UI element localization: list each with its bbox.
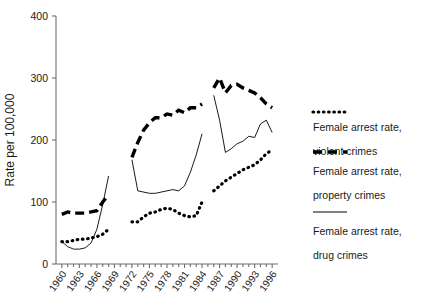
y-tick-label: 100 bbox=[30, 196, 48, 208]
y-tick-label: 200 bbox=[30, 134, 48, 146]
legend-label-line2: drug crimes bbox=[313, 249, 368, 261]
y-tick-label: 0 bbox=[42, 258, 48, 270]
chart-container: 0100200300400 19601963196619691972197519… bbox=[0, 0, 446, 304]
legend-label-line2: property crimes bbox=[313, 189, 385, 201]
y-tick-label: 400 bbox=[30, 10, 48, 22]
chart-background bbox=[0, 0, 446, 304]
line-chart: 0100200300400 19601963196619691972197519… bbox=[0, 0, 446, 304]
legend-label-line1: Female arrest rate, bbox=[313, 225, 402, 237]
y-tick-label: 300 bbox=[30, 72, 48, 84]
y-axis-label: Rate per 100,000 bbox=[3, 93, 17, 186]
legend-label-line1: Female arrest rate, bbox=[313, 165, 402, 177]
legend-label-line1: Female arrest rate, bbox=[313, 121, 402, 133]
